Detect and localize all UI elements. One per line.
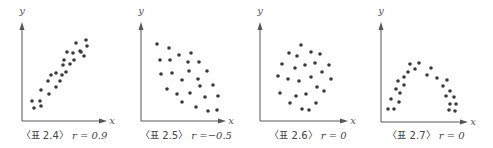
data-point [396, 79, 400, 83]
data-point [38, 99, 42, 103]
data-point [435, 76, 439, 80]
caption-correlation: r = 0.9 [72, 130, 108, 141]
y-axis-arrow-icon [20, 22, 25, 30]
y-axis-arrow-icon [379, 22, 384, 30]
data-point [203, 95, 207, 99]
data-point [168, 58, 172, 62]
data-point [175, 92, 179, 96]
caption-label: 〈표 2.5〉 [140, 130, 191, 141]
x-axis-arrow-icon [460, 120, 468, 125]
data-point [159, 72, 163, 76]
data-point [454, 102, 458, 106]
x-axis-label: x [109, 115, 115, 126]
data-point [165, 87, 169, 91]
data-point [417, 61, 421, 65]
data-point [85, 44, 89, 48]
x-axis-label: x [470, 116, 476, 127]
y-axis-label: y [256, 5, 263, 16]
data-point [46, 79, 50, 83]
data-point [61, 63, 65, 67]
data-point [392, 107, 396, 111]
data-point [47, 92, 51, 96]
data-point [329, 77, 333, 81]
data-point [79, 50, 83, 54]
x-axis-arrow-icon [340, 119, 348, 124]
data-point [309, 75, 313, 79]
scatter-chart-3: yx〈표 2.6〉 r = 0 [256, 5, 356, 141]
data-point [155, 42, 159, 46]
data-point [170, 71, 174, 75]
data-point [386, 107, 390, 111]
data-point [280, 62, 284, 66]
data-point [74, 41, 78, 45]
data-point [82, 54, 86, 58]
data-point [216, 94, 220, 98]
data-point [286, 77, 290, 81]
data-point [194, 105, 198, 109]
chart-caption: 〈표 2.7〉 r = 0 [387, 130, 465, 141]
y-axis-label: y [377, 5, 384, 16]
scatter-figure: yx〈표 2.4〉 r = 0.9yx〈표 2.5〉 r =−0.5yx〈표 2… [0, 0, 493, 148]
data-point [398, 91, 402, 95]
data-point [406, 70, 410, 74]
data-points [386, 61, 458, 113]
data-point [32, 106, 36, 110]
data-point [447, 108, 451, 112]
data-point [62, 58, 66, 62]
data-point [39, 88, 43, 92]
caption-correlation: r = 0 [439, 130, 466, 141]
data-point [299, 43, 303, 47]
data-point [64, 70, 68, 74]
data-point [293, 66, 297, 70]
data-point [186, 60, 190, 64]
y-axis-arrow-icon [258, 22, 263, 30]
data-point [452, 95, 456, 99]
data-point [215, 108, 219, 112]
data-point [187, 69, 191, 73]
caption-label: 〈표 2.6〉 [269, 130, 320, 141]
scatter-chart-1: yx〈표 2.4〉 r = 0.9 [18, 5, 115, 141]
data-point [180, 78, 184, 82]
caption-correlation: r =−0.5 [191, 130, 232, 141]
data-point [297, 79, 301, 83]
data-point [413, 67, 417, 71]
data-point [304, 92, 308, 96]
data-point [196, 77, 200, 81]
scatter-chart-2: yx〈표 2.5〉 r =−0.5 [137, 5, 234, 141]
data-point [307, 108, 311, 112]
data-point [278, 91, 282, 95]
data-point [189, 51, 193, 55]
data-point [30, 99, 34, 103]
data-point [54, 85, 58, 89]
data-point [276, 74, 280, 78]
caption-correlation: r = 0 [321, 130, 348, 141]
data-point [197, 60, 201, 64]
data-point [287, 51, 291, 55]
chart-caption: 〈표 2.6〉 r = 0 [269, 130, 347, 141]
caption-label: 〈표 2.4〉 [21, 130, 72, 141]
data-point [303, 63, 307, 67]
caption-label: 〈표 2.7〉 [387, 130, 438, 141]
data-point [441, 84, 445, 88]
data-point [402, 83, 406, 87]
data-point [448, 89, 452, 93]
data-points [276, 43, 333, 112]
data-point [68, 62, 72, 66]
data-point [288, 101, 292, 105]
data-point [444, 94, 448, 98]
x-axis-label: x [350, 115, 356, 126]
data-points [30, 38, 89, 110]
data-point [188, 91, 192, 95]
data-point [402, 75, 406, 79]
data-point [72, 58, 76, 62]
data-point [180, 100, 184, 104]
data-point [60, 73, 64, 77]
data-point [315, 85, 319, 89]
chart-caption: 〈표 2.4〉 r = 0.9 [21, 130, 108, 141]
data-point [295, 54, 299, 58]
x-axis-label: x [228, 115, 234, 126]
data-point [39, 104, 43, 108]
data-point [389, 97, 393, 101]
data-point [205, 69, 209, 73]
data-point [65, 50, 69, 54]
